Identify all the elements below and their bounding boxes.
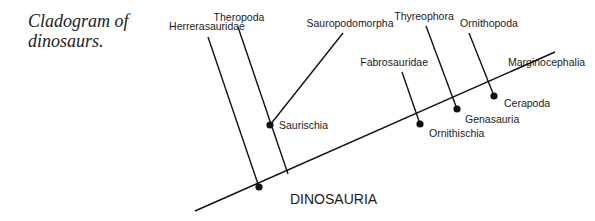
label-theropoda: Theropoda: [214, 11, 265, 23]
label-cerapoda: Cerapoda: [504, 97, 550, 109]
node-saurischia: [266, 121, 273, 128]
branch-herrerasauridae: [208, 37, 259, 187]
node-cerapoda: [490, 92, 497, 99]
main-axis: [195, 52, 555, 211]
branch-ornithopoda: [469, 33, 494, 96]
node-ornithischia: [416, 120, 423, 127]
branch-thyreophora: [426, 26, 457, 109]
label-saurischia: Saurischia: [279, 119, 328, 131]
label-thyreophora: Thyreophora: [394, 10, 454, 22]
label-ornithopoda: Ornithopoda: [460, 17, 518, 29]
node-genasauria: [453, 105, 460, 112]
label-sauropodomorpha: Sauropodomorpha: [307, 17, 394, 29]
label-marginocephalia: Marginocephalia: [508, 56, 585, 68]
branch-sauropodomorpha: [270, 33, 343, 125]
label-ornithischia: Ornithischia: [429, 127, 485, 139]
label-genasauria: Genasauria: [465, 113, 519, 125]
node-dinosauria: [255, 183, 262, 190]
label-fabrosauridae: Fabrosauridae: [360, 56, 428, 68]
cladogram: Herrerasauridae Theropoda Sauropodomorph…: [0, 0, 595, 221]
label-dinosauria: DINOSAURIA: [290, 191, 378, 207]
branch-theropoda: [238, 27, 288, 174]
